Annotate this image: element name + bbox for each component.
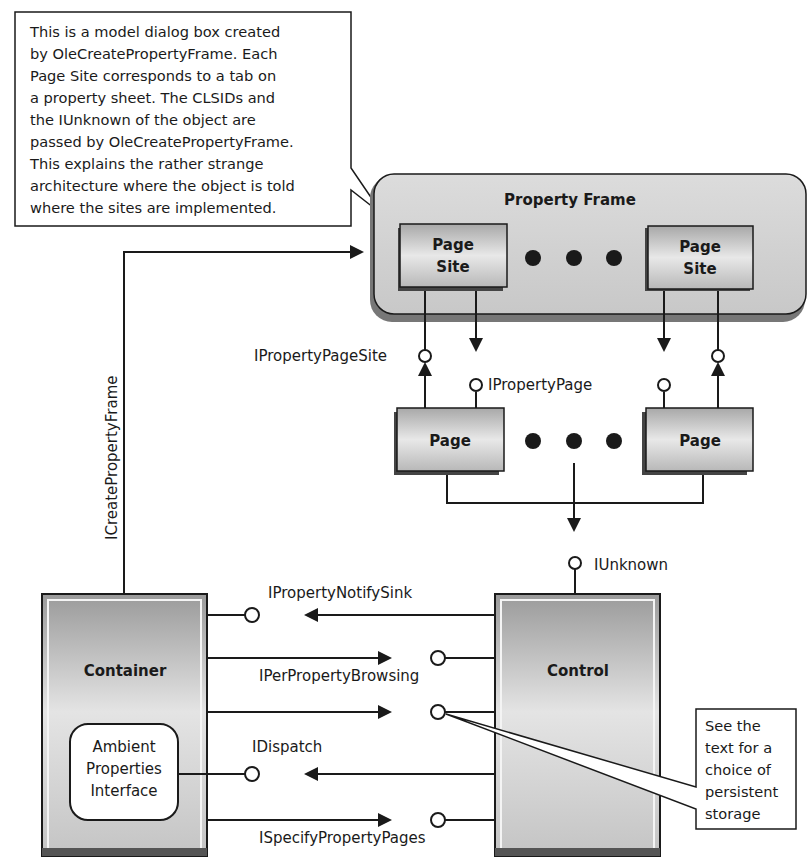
- ellipsis-dot-icon: [525, 433, 541, 449]
- property-frame-title: Property Frame: [504, 191, 636, 209]
- ellipsis-dot-icon: [606, 250, 622, 266]
- create-property-frame-label: ICreatePropertyFrame: [103, 376, 121, 540]
- ambient-label: Properties: [86, 760, 162, 778]
- page-site-label: Site: [683, 260, 716, 278]
- arrow-right-icon: [378, 651, 392, 665]
- arrow-down-icon: [657, 338, 671, 352]
- callout-bottom-line: persistent: [705, 783, 778, 800]
- lollipop-dispatch-icon: [245, 767, 259, 781]
- diagram-canvas: This is a model dialog box created by Ol…: [0, 0, 811, 864]
- lollipop-page-icon: [658, 379, 670, 391]
- callout-bottom-line: See the: [705, 717, 761, 734]
- ambient-label: Interface: [90, 782, 157, 800]
- arrow-down-icon: [567, 518, 581, 532]
- callout-top-line: passed by OleCreatePropertyFrame.: [30, 133, 294, 150]
- callout-bottom-line: choice of: [705, 761, 772, 778]
- property-frame[interactable]: Property Frame Page Site Page Site: [370, 174, 806, 322]
- callout-top-line: This is a model dialog box created: [29, 23, 280, 40]
- arrow-down-icon: [469, 338, 483, 352]
- arrow-left-icon: [304, 608, 318, 622]
- container-box[interactable]: Container Ambient Properties Interface: [42, 594, 207, 856]
- page-site-label: Site: [436, 258, 469, 276]
- callout-bottom-line: text for a: [705, 739, 772, 756]
- callout-top-line: a property sheet. The CLSIDs and: [30, 89, 275, 106]
- pages-to-control-connector: IUnknown: [447, 463, 703, 594]
- callout-top-line: This explains the rather strange: [29, 155, 264, 172]
- page-interface-label: IPropertyPage: [488, 376, 592, 394]
- arrow-left-icon: [304, 767, 318, 781]
- page-right[interactable]: Page: [642, 408, 753, 475]
- ambient-label: Ambient: [92, 738, 155, 756]
- arrow-up-icon: [418, 362, 432, 376]
- per-property-browsing-connection: IPerPropertyBrowsing: [207, 651, 495, 685]
- unknown-interface-label: IUnknown: [594, 556, 668, 574]
- arrow-right-icon: [378, 813, 392, 827]
- notify-sink-label: IPropertyNotifySink: [268, 584, 412, 602]
- lollipop-per-property-browsing-icon: [431, 651, 445, 665]
- ellipsis-dot-icon: [606, 433, 622, 449]
- container-title: Container: [84, 662, 167, 680]
- callout-top: This is a model dialog box created by Ol…: [15, 12, 383, 226]
- lollipop-page-site-icon: [712, 350, 724, 362]
- lollipop-unknown-icon: [569, 557, 581, 569]
- arrow-right-icon: [378, 705, 392, 719]
- page-label: Page: [679, 432, 721, 450]
- create-property-frame-connector: ICreatePropertyFrame: [103, 245, 364, 594]
- page-label: Page: [429, 432, 471, 450]
- page-site-label: Page: [432, 236, 474, 254]
- callout-top-line: where the sites are implemented.: [30, 199, 277, 216]
- callout-top-line: Page Site corresponds to a tab on: [30, 67, 276, 84]
- arrow-right-icon: [350, 245, 364, 259]
- ellipsis-dot-icon: [566, 250, 582, 266]
- page-site-label: Page: [679, 238, 721, 256]
- control-box[interactable]: Control: [495, 594, 660, 856]
- dispatch-label: IDispatch: [252, 738, 322, 756]
- ellipsis-dot-icon: [525, 250, 541, 266]
- lollipop-persistence-icon: [431, 705, 445, 719]
- lollipop-page-icon: [470, 379, 482, 391]
- control-title: Control: [547, 662, 609, 680]
- lollipop-specify-pages-icon: [431, 813, 445, 827]
- lollipop-notify-sink-icon: [245, 608, 259, 622]
- callout-top-line: the IUnknown of the object are: [30, 111, 256, 128]
- lollipop-page-site-icon: [419, 350, 431, 362]
- ambient-properties-interface[interactable]: Ambient Properties Interface: [70, 724, 178, 820]
- specify-property-pages-label: ISpecifyPropertyPages: [259, 829, 426, 847]
- ellipsis-dot-icon: [566, 433, 582, 449]
- page-site-interface-label: IPropertyPageSite: [254, 347, 387, 365]
- page-left[interactable]: Page: [394, 408, 504, 475]
- notify-sink-connection: IPropertyNotifySink: [207, 584, 495, 622]
- page-site-right[interactable]: Page Site: [645, 226, 753, 291]
- callout-top-line: by OleCreatePropertyFrame. Each: [30, 45, 278, 62]
- dispatch-connection: IDispatch: [178, 738, 495, 781]
- callout-top-line: architecture where the object is told: [30, 177, 295, 194]
- callout-bottom-line: storage: [705, 805, 760, 822]
- per-property-browsing-label: IPerPropertyBrowsing: [259, 667, 419, 685]
- page-site-left[interactable]: Page Site: [398, 224, 507, 291]
- specify-property-pages-connection: ISpecifyPropertyPages: [207, 813, 495, 847]
